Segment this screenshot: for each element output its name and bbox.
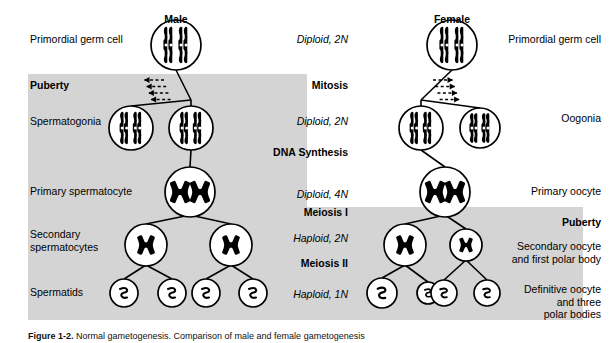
label-haploid-2n: Haploid, 2N [198,232,348,245]
cell-spermatid-0 [110,279,138,307]
cell-spermatogonium-0 [109,106,153,150]
cell-primordial-germ-cell-male [151,20,201,70]
caption-text: Normal gametogenesis. Comparison of male… [74,331,365,341]
male-meiosis2-line-0 [124,265,146,279]
label-dna-synthesis: DNA Synthesis [198,146,348,159]
label-diploid-4n: Diploid, 4N [198,188,348,201]
label-diploid-2n-primordial: Diploid, 2N [198,33,348,46]
female-branch-right [421,100,480,108]
header-female: Female [412,13,492,26]
label-diploid-2n-spermatogonia: Diploid, 2N [198,115,348,128]
label-haploid-1n: Haploid, 1N [198,288,348,301]
label-oogonia: Oogonia [449,112,601,125]
label-mitosis: Mitosis [198,79,348,92]
label-puberty-female: Puberty [449,216,601,229]
female-meiosis2-line-pb0 [405,265,428,282]
label-primordial-germ-cell-male: Primordial germ cell [30,33,123,46]
figure-gametogenesis: Primordial germ cell Puberty Spermatogon… [0,0,611,343]
caption-label: Figure 1-2. [28,331,74,341]
female-stem-line [421,70,452,100]
label-spermatogonia: Spermatogonia [30,115,101,128]
label-primary-spermatocyte: Primary spermatocyte [30,185,132,198]
label-secondary-oocyte: Secondary oocyte and first polar body [449,240,601,265]
cell-definitive-oocyte [367,278,397,308]
male-dna-synthesis-line [190,150,191,167]
female-dna-synthesis-line [421,150,445,167]
label-secondary-spermatocytes: Secondary spermatocytes [30,228,98,253]
male-repeated-division-arrows [144,77,171,103]
label-primary-oocyte: Primary oocyte [449,185,601,198]
cell-spermatogonium-1 [169,106,213,150]
female-meiosis2-line-definitive [382,265,405,278]
male-stem-line [176,70,191,100]
figure-caption: Figure 1-2. Normal gametogenesis. Compar… [28,331,588,343]
label-meiosis-i: Meiosis I [198,206,348,219]
label-spermatids: Spermatids [30,286,83,299]
cell-secondary-spermatocyte-0 [125,224,167,266]
male-branch-left [131,100,191,106]
label-primordial-germ-cell-female: Primordial germ cell [449,33,601,46]
cell-spermatid-1 [158,279,186,307]
label-meiosis-ii: Meiosis II [198,257,348,270]
female-repeated-division-arrows [433,77,460,103]
male-meiosis2-line-1 [146,265,172,279]
header-male: Male [136,13,216,26]
cell-secondary-oocyte [384,224,426,266]
cell-oogonium-0 [399,106,443,150]
label-definitive-oocyte: Definitive oocyte and three polar bodies [449,283,601,321]
label-puberty-male: Puberty [30,79,69,92]
